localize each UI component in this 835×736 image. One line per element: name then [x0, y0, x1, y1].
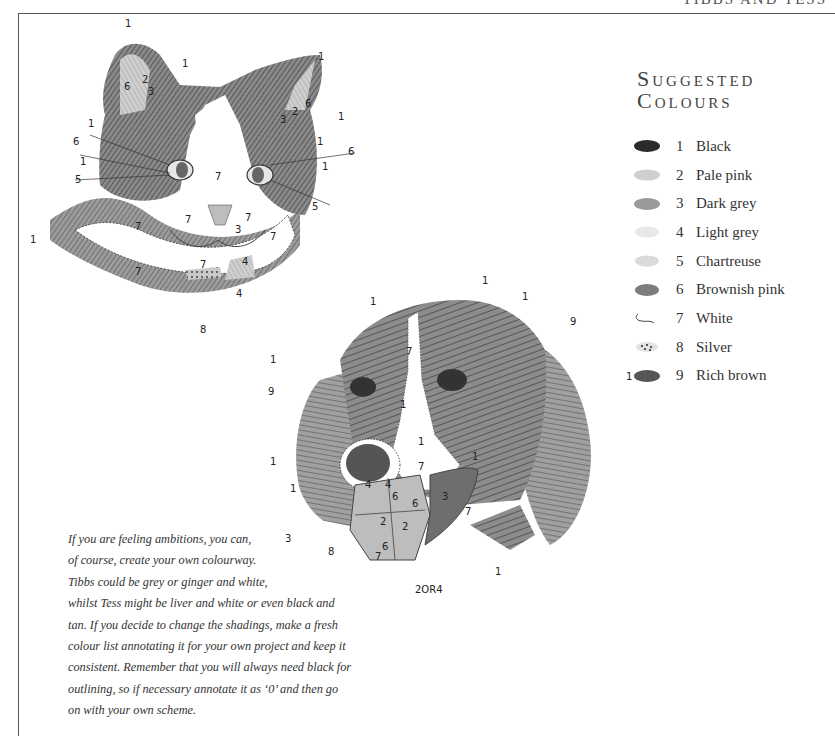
svg-text:7: 7 — [185, 214, 191, 225]
svg-text:6: 6 — [392, 491, 398, 502]
running-head: TIBBS AND TESS — [683, 0, 827, 8]
svg-text:4: 4 — [385, 479, 391, 490]
silver-dots-swatch-icon — [632, 340, 662, 354]
legend-number: 9 — [676, 367, 696, 384]
legend-label: Dark grey — [696, 195, 756, 212]
svg-text:2: 2 — [292, 106, 298, 117]
paragraph-line: of course, create your own colourway. — [68, 550, 413, 571]
svg-text:1: 1 — [400, 399, 406, 410]
svg-text:5: 5 — [75, 174, 81, 185]
svg-text:6: 6 — [348, 146, 354, 157]
pale-pink-swatch-icon — [632, 168, 662, 182]
paragraph-line: consistent. Remember that you will alway… — [68, 657, 413, 678]
legend-number: 3 — [676, 195, 696, 212]
svg-text:6: 6 — [305, 98, 311, 109]
legend-title-line2: Colours — [637, 90, 755, 112]
svg-text:3: 3 — [280, 114, 286, 125]
rich-brown-swatch-icon — [632, 369, 662, 383]
svg-text:6: 6 — [412, 498, 418, 509]
svg-text:1: 1 — [125, 18, 131, 29]
legend-item: 1 Black — [632, 132, 785, 161]
svg-text:5: 5 — [312, 201, 318, 212]
svg-text:1: 1 — [270, 354, 276, 365]
light-grey-swatch-icon — [632, 225, 662, 239]
svg-text:1: 1 — [482, 275, 488, 286]
legend-item: 6 Brownish pink — [632, 275, 785, 304]
paragraph-line: tan. If you decide to change the shading… — [68, 615, 413, 636]
svg-text:9: 9 — [268, 386, 274, 397]
svg-text:1: 1 — [495, 566, 501, 577]
legend-title-line1: Suggested — [637, 68, 755, 90]
legend-label: White — [696, 310, 733, 327]
svg-text:1: 1 — [290, 483, 296, 494]
legend-item: 3 Dark grey — [632, 189, 785, 218]
legend-label: Light grey — [696, 224, 759, 241]
svg-text:1: 1 — [322, 161, 328, 172]
legend-label: Pale pink — [696, 167, 752, 184]
legend-item: 5 Chartreuse — [632, 247, 785, 276]
svg-text:7: 7 — [215, 171, 221, 182]
brownish-pink-swatch-icon — [632, 283, 662, 297]
svg-text:3: 3 — [235, 224, 241, 235]
body-paragraph: If you are feeling ambitions, you can, o… — [68, 529, 413, 722]
svg-text:7: 7 — [200, 259, 206, 270]
legend-number: 5 — [676, 253, 696, 270]
svg-text:1: 1 — [88, 118, 94, 129]
svg-text:7: 7 — [465, 506, 471, 517]
svg-text:7: 7 — [245, 212, 251, 223]
black-swatch-icon — [632, 139, 662, 153]
legend-item: 2 Pale pink — [632, 161, 785, 190]
legend-label: Rich brown — [696, 367, 766, 384]
svg-text:8: 8 — [200, 324, 206, 335]
svg-text:3: 3 — [442, 491, 448, 502]
svg-text:4: 4 — [236, 288, 242, 299]
paragraph-line: colour list annotating it for your own p… — [68, 636, 413, 657]
svg-text:1: 1 — [182, 58, 188, 69]
dark-grey-swatch-icon — [632, 197, 662, 211]
svg-text:7: 7 — [270, 231, 276, 242]
legend-item: 7 White — [632, 304, 785, 333]
colour-legend: 1 Black 2 Pale pink 3 Dark grey 4 Light … — [632, 132, 785, 390]
legend-label: Chartreuse — [696, 253, 761, 270]
svg-text:1: 1 — [370, 296, 376, 307]
chartreuse-swatch-icon — [632, 254, 662, 268]
legend-label: Black — [696, 138, 731, 155]
svg-text:6: 6 — [73, 136, 79, 147]
legend-title: Suggested Colours — [637, 68, 755, 112]
svg-text:4: 4 — [242, 256, 248, 267]
top-rule — [18, 13, 835, 14]
legend-number: 6 — [676, 281, 696, 298]
legend-label: Brownish pink — [696, 281, 785, 298]
svg-text:1: 1 — [317, 136, 323, 147]
svg-text:1: 1 — [270, 456, 276, 467]
paragraph-line: whilst Tess might be liver and white or … — [68, 593, 413, 614]
paragraph-line: on with your own scheme. — [68, 700, 413, 721]
svg-text:6: 6 — [124, 81, 130, 92]
paragraph-line: outlining, so if necessary annotate it a… — [68, 679, 413, 700]
legend-number: 4 — [676, 224, 696, 241]
svg-text:7: 7 — [135, 266, 141, 277]
svg-text:3: 3 — [148, 86, 154, 97]
paragraph-line: Tibbs could be grey or ginger and white, — [68, 572, 413, 593]
legend-item: 8 Silver — [632, 333, 785, 362]
legend-number: 2 — [676, 167, 696, 184]
legend-item: 4 Light grey — [632, 218, 785, 247]
svg-text:1: 1 — [80, 156, 86, 167]
svg-text:2OR4: 2OR4 — [415, 584, 443, 595]
legend-label: Silver — [696, 339, 732, 356]
svg-text:7: 7 — [418, 461, 424, 472]
legend-number: 1 — [676, 138, 696, 155]
svg-text:7: 7 — [406, 346, 412, 357]
legend-item: 9 Rich brown — [632, 362, 785, 391]
legend-number: 7 — [676, 310, 696, 327]
svg-text:1: 1 — [472, 451, 478, 462]
svg-text:1: 1 — [522, 291, 528, 302]
svg-text:1: 1 — [338, 111, 344, 122]
svg-text:2: 2 — [142, 74, 148, 85]
legend-number: 8 — [676, 339, 696, 356]
svg-text:4: 4 — [365, 479, 371, 490]
svg-text:1: 1 — [418, 436, 424, 447]
white-outline-swatch-icon — [632, 311, 662, 325]
paragraph-line: If you are feeling ambitions, you can, — [68, 529, 413, 550]
svg-text:2: 2 — [380, 516, 386, 527]
